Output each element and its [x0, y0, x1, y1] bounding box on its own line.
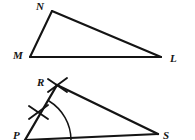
- angle-arc-p: [49, 101, 71, 140]
- segment-ps: [25, 134, 158, 140]
- segment-pr: [25, 85, 57, 140]
- tick-mark-upper: [48, 78, 67, 92]
- vertex-label-l: L: [169, 52, 177, 64]
- segment-mn: [30, 11, 52, 57]
- vertex-label-m: M: [12, 49, 24, 61]
- segment-rs: [57, 85, 158, 134]
- triangle-mnl: [30, 11, 161, 57]
- segment-nl: [52, 11, 161, 57]
- vertex-label-n: N: [35, 0, 45, 12]
- figure-canvas: M N L R P S: [0, 0, 195, 140]
- vertex-label-p: P: [13, 129, 20, 140]
- geometry-figure: M N L R P S: [0, 0, 195, 140]
- vertex-label-s: S: [163, 129, 169, 140]
- vertex-label-r: R: [36, 76, 44, 88]
- triangle-prs: [25, 78, 158, 140]
